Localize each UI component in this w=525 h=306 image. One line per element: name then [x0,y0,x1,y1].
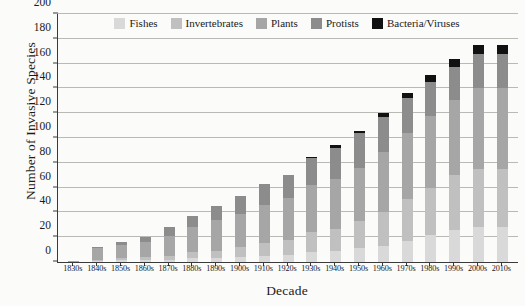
bar-segment-protists [473,54,484,89]
bar-segment-bacteria-viruses [425,75,436,82]
bar-segment-fishes [354,248,365,262]
bar-segment-plants [425,116,436,188]
bar-column-1930s[interactable] [300,14,324,262]
y-axis-title: Number of Invasive Species [23,6,39,236]
bar-stack [92,247,103,262]
bar-segment-fishes [497,227,508,262]
bar-segment-plants [354,168,365,221]
y-tick-label-60: 60 [40,170,59,182]
bar-segment-invertebrates [497,169,508,227]
bar-stack [164,227,175,262]
bar-column-1970s[interactable] [395,14,419,262]
bar-segment-protists [187,216,198,227]
bar-column-1940s[interactable] [324,14,348,262]
bar-segment-invertebrates [354,221,365,248]
bar-segment-bacteria-viruses [449,59,460,68]
bar-column-2000s[interactable] [467,14,491,262]
bar-stack [235,196,246,262]
y-tick-label-40: 40 [40,194,59,206]
x-tick-label-1980s: 1980s [418,264,442,273]
bar-segment-protists [211,206,222,220]
bar-column-1980s[interactable] [419,14,443,262]
bar-column-1900s[interactable] [229,14,253,262]
bar-segment-plants [330,179,341,229]
bar-segment-plants [449,100,460,176]
bar-column-1840s[interactable] [86,14,110,262]
bar-segment-invertebrates [330,229,341,251]
bar-column-1850s[interactable] [110,14,134,262]
bar-column-1950s[interactable] [348,14,372,262]
x-tick-label-1860s: 1860s [132,264,156,273]
bar-segment-protists [378,117,389,152]
bar-segment-plants [164,236,175,256]
bar-column-1830s[interactable] [62,14,86,262]
x-tick-label-1930s: 1930s [299,264,323,273]
bar-column-1870s[interactable] [157,14,181,262]
bar-segment-protists [497,54,508,89]
x-tick-label-1880s: 1880s [180,264,204,273]
bar-column-1890s[interactable] [205,14,229,262]
bar-segment-plants [473,88,484,169]
bar-segment-plants [497,88,508,169]
bar-segment-plants [259,205,270,243]
bar-segment-invertebrates [378,212,389,245]
x-tick-label-1830s: 1830s [61,264,85,273]
bar-column-1920s[interactable] [276,14,300,262]
bar-column-1960s[interactable] [371,14,395,262]
bar-segment-fishes [330,251,341,262]
bar-column-1910s[interactable] [252,14,276,262]
bar-segment-invertebrates [402,199,413,241]
bar-segment-fishes [306,252,317,262]
bar-stack [187,216,198,262]
x-tick-label-1990s: 1990s [442,264,466,273]
bar-segment-invertebrates [473,169,484,227]
x-tick-label-1920s: 1920s [275,264,299,273]
bar-stack [497,45,508,262]
bar-stack [211,206,222,262]
x-axis-tick-labels: 1830s1840s1850s1860s1870s1880s1890s1900s… [57,264,517,273]
bar-segment-invertebrates [211,251,222,258]
x-tick-label-2000s: 2000s [466,264,490,273]
x-tick-label-2010s: 2010s [489,264,513,273]
bar-stack [306,157,317,262]
bar-segment-plants [116,245,127,259]
bar-column-1880s[interactable] [181,14,205,262]
bar-segment-protists [164,227,175,236]
bar-series-container [58,14,518,262]
bar-segment-plants [283,198,294,240]
plot-area: 020406080100120140160180200 [57,14,518,263]
bar-stack [140,237,151,262]
bar-column-2010s[interactable] [490,14,514,262]
bar-segment-bacteria-viruses [473,45,484,54]
bar-segment-fishes [402,241,413,262]
bar-column-1990s[interactable] [443,14,467,262]
x-tick-label-1850s: 1850s [109,264,133,273]
bar-segment-bacteria-viruses [497,45,508,54]
bar-stack [473,45,484,262]
bar-segment-invertebrates [306,232,317,252]
y-tick-label-0: 0 [45,244,58,256]
bar-segment-fishes [425,235,436,262]
bar-column-1860s[interactable] [133,14,157,262]
x-tick-label-1970s: 1970s [394,264,418,273]
bar-segment-plants [187,227,198,252]
bar-stack [283,175,294,262]
bar-segment-protists [306,158,317,185]
bar-segment-plants [402,133,413,199]
bar-segment-plants [235,214,246,247]
bar-stack [330,145,341,262]
bar-segment-protists [425,82,436,115]
bar-stack [354,131,365,262]
bar-stack [425,75,436,262]
y-tick-label-80: 80 [40,145,59,157]
bar-segment-protists [259,184,270,205]
bar-stack [116,242,127,262]
bar-segment-protists [449,67,460,99]
x-axis-title: Decade [57,283,517,299]
bar-segment-plants [140,242,151,257]
bar-segment-invertebrates [283,240,294,255]
x-tick-label-1890s: 1890s [204,264,228,273]
x-tick-label-1870s: 1870s [156,264,180,273]
bar-segment-protists [330,148,341,179]
bar-segment-plants [306,185,317,232]
